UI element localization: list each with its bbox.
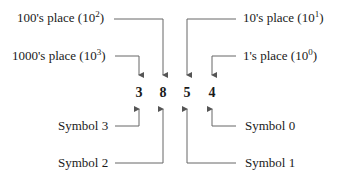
- digit-8: 8: [157, 86, 169, 100]
- connector-1000s-place: [115, 56, 139, 75]
- label-10s-place: 10's place (101): [243, 11, 324, 24]
- label-1000s-place: 1000's place (103): [12, 49, 106, 62]
- label-symbol-0: Symbol 0: [245, 119, 295, 132]
- label-symbol-3: Symbol 3: [58, 119, 108, 132]
- connector-1s-place: [212, 56, 236, 75]
- connector-lines: [0, 0, 341, 179]
- label-symbol-2: Symbol 2: [58, 156, 108, 169]
- label-100s-place: 100's place (102): [17, 11, 104, 24]
- digit-4: 4: [206, 86, 218, 100]
- label-symbol-1: Symbol 1: [245, 156, 295, 169]
- label-1s-place: 1's place (100): [243, 49, 317, 62]
- digit-5: 5: [181, 86, 193, 100]
- digit-3: 3: [133, 86, 145, 100]
- connector-symbol-3: [115, 109, 139, 126]
- connector-symbol-0: [212, 109, 236, 126]
